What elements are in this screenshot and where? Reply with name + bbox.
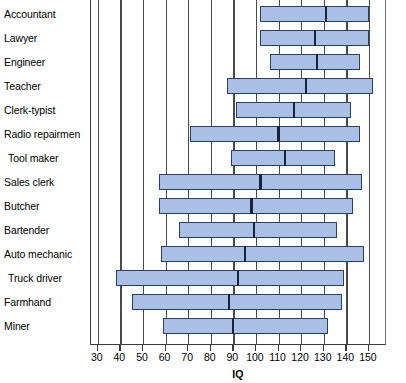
category-label: Accountant (4, 2, 90, 26)
category-label: Engineer (4, 50, 90, 74)
iq-by-occupation-chart: AccountantLawyerEngineerTeacherClerk-typ… (0, 0, 406, 383)
category-label: Butcher (4, 194, 90, 218)
plot-area (90, 0, 386, 345)
median-marker (325, 6, 327, 22)
category-axis-labels: AccountantLawyerEngineerTeacherClerk-typ… (0, 0, 90, 345)
bar-row (91, 26, 385, 50)
range-bar (227, 78, 374, 94)
bars-layer (91, 0, 385, 345)
median-marker (232, 318, 234, 334)
median-marker (314, 30, 316, 46)
bar-row (91, 122, 385, 146)
bar-row (91, 266, 385, 290)
bar-row (91, 98, 385, 122)
category-label: Miner (4, 314, 90, 338)
category-label: Tool maker (8, 146, 94, 170)
bar-row (91, 74, 385, 98)
bar-row (91, 170, 385, 194)
category-label: Sales clerk (4, 170, 90, 194)
x-tick-label: 150 (353, 351, 383, 363)
median-marker (250, 198, 252, 214)
median-marker (237, 270, 239, 286)
category-label: Lawyer (4, 26, 90, 50)
median-marker (316, 54, 318, 70)
median-marker (253, 222, 255, 238)
category-label: Clerk-typist (4, 98, 90, 122)
category-label: Teacher (4, 74, 90, 98)
range-bar (260, 6, 368, 22)
bar-row (91, 50, 385, 74)
bar-row (91, 290, 385, 314)
category-label: Radio repairmen (4, 122, 90, 146)
median-marker (277, 126, 279, 142)
median-marker (259, 174, 261, 190)
range-bar (161, 246, 364, 262)
median-marker (244, 246, 246, 262)
range-bar (116, 270, 344, 286)
x-axis: IQ 30405060708090100110120130140150 (90, 345, 386, 383)
category-label: Bartender (4, 218, 90, 242)
median-marker (284, 150, 286, 166)
range-bar (163, 318, 328, 334)
bar-row (91, 146, 385, 170)
x-axis-title: IQ (90, 368, 386, 380)
bar-row (91, 314, 385, 338)
median-marker (228, 294, 230, 310)
range-bar (231, 150, 335, 166)
category-label: Auto mechanic (4, 242, 90, 266)
range-bar (190, 126, 359, 142)
median-marker (293, 102, 295, 118)
range-bar (270, 54, 360, 70)
category-label: Farmhand (4, 290, 90, 314)
range-bar (159, 198, 353, 214)
range-bar (179, 222, 337, 238)
bar-row (91, 218, 385, 242)
median-marker (305, 78, 307, 94)
range-bar (132, 294, 342, 310)
bar-row (91, 194, 385, 218)
bar-row (91, 242, 385, 266)
category-label: Truck driver (8, 266, 94, 290)
bar-row (91, 2, 385, 26)
